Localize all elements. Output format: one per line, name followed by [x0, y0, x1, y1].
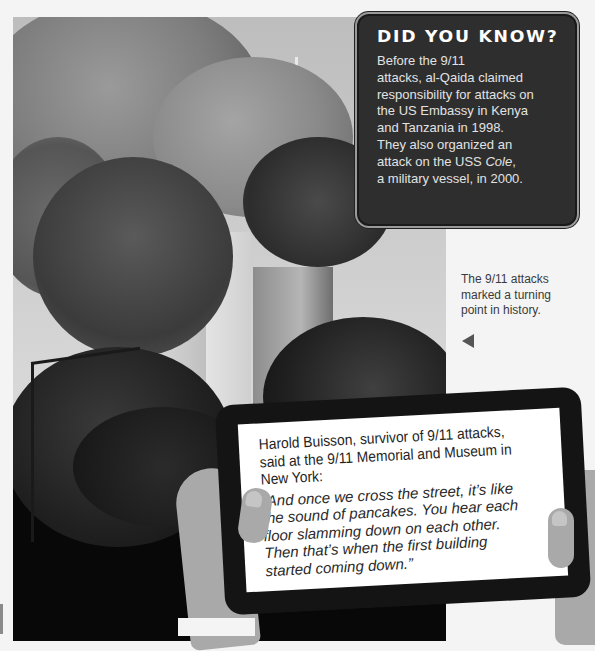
- body-line: the US Embassy in Kenya: [377, 103, 565, 120]
- caption-line: The 9/11 attacks: [461, 272, 586, 288]
- body-line: a military vessel, in 2000.: [377, 171, 565, 188]
- caption-line: marked a turning: [461, 288, 586, 304]
- body-line: attack on the USS Cole,: [377, 154, 565, 171]
- tablet-screen: Harold Buisson, survivor of 9/11 attacks…: [238, 408, 568, 593]
- body-line: They also organized an: [377, 137, 565, 154]
- body-line: Before the 9/11: [377, 53, 565, 70]
- did-you-know-title: DID YOU KNOW?: [377, 28, 593, 46]
- right-thumbnail: [552, 511, 567, 526]
- caption-line: point in history.: [461, 303, 586, 319]
- did-you-know-box: DID YOU KNOW? Before the 9/11 attacks, a…: [357, 14, 577, 226]
- page-edge-marker: [0, 604, 3, 634]
- dark-smoke: [33, 157, 233, 357]
- body-text: attack on the USS: [377, 154, 485, 169]
- body-line: attacks, al-Qaida claimed: [377, 70, 565, 87]
- did-you-know-body: Before the 9/11 attacks, al-Qaida claime…: [377, 53, 565, 187]
- body-text: ,: [512, 154, 516, 169]
- left-triangle-icon: [462, 334, 474, 348]
- street-light: [31, 362, 34, 542]
- survivor-quote: “And once we cross the street, it’s like…: [261, 477, 557, 580]
- sleeve-cuff: [178, 618, 255, 636]
- ship-name: Cole: [485, 154, 512, 169]
- body-line: responsibility for attacks on: [377, 87, 565, 104]
- body-line: and Tanzania in 1998.: [377, 120, 565, 137]
- photo-caption: The 9/11 attacks marked a turning point …: [461, 272, 586, 319]
